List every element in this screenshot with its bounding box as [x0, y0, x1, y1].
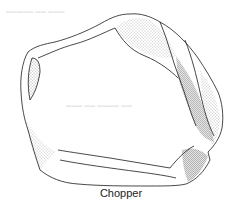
left-lower-shading	[26, 120, 56, 170]
stippling-shading	[26, 18, 220, 182]
top-shading	[115, 18, 176, 58]
left-facet	[28, 58, 40, 100]
chopper-illustration	[0, 0, 242, 206]
figure-caption: Chopper	[0, 187, 242, 199]
bottom-inner	[58, 146, 194, 168]
lower-right-shading	[182, 148, 208, 182]
bottom-facet	[60, 160, 176, 178]
